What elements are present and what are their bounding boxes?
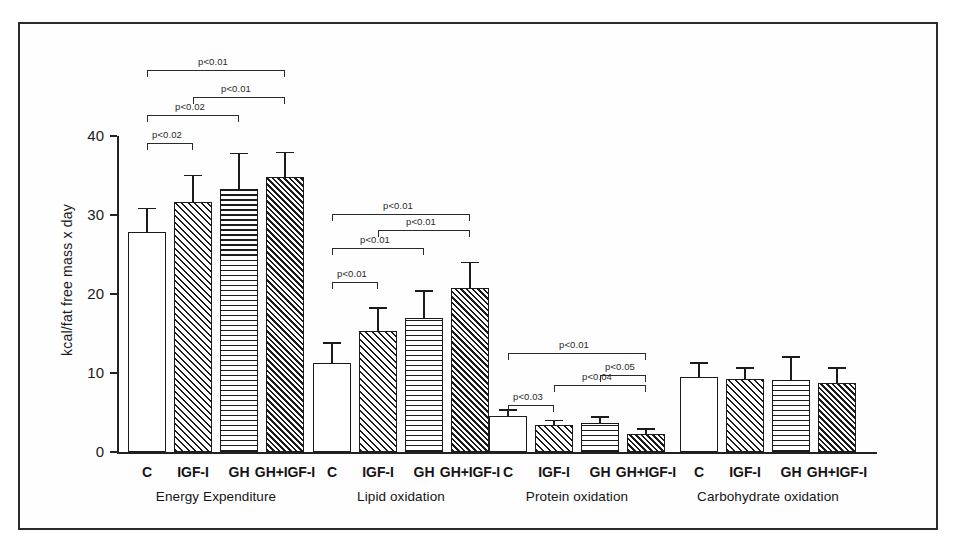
significance-bracket-line (332, 282, 378, 283)
error-bar-cap (782, 356, 800, 358)
significance-bracket-tick-left (332, 214, 333, 221)
bar (266, 177, 304, 452)
bar (174, 202, 212, 452)
significance-p-value-label: p<0.01 (360, 235, 390, 245)
y-axis-tick (110, 135, 117, 137)
y-axis-tick-label-text: 20 (74, 286, 104, 301)
significance-bracket-tick-left (332, 282, 333, 289)
error-bar-stem (238, 153, 240, 189)
y-axis-tick (110, 214, 117, 216)
error-bar-cap (184, 175, 202, 177)
error-bar-cap (323, 342, 341, 344)
y-axis-tick-label-text: 40 (74, 128, 104, 143)
figure-root: 010203040 kcal/fat free mass x day p<0.0… (0, 0, 956, 560)
significance-bracket-line (508, 405, 554, 406)
error-bar-cap (828, 367, 846, 369)
significance-bracket-tick-left (147, 70, 148, 77)
x-axis-group-label: Protein oxidation (467, 489, 687, 505)
error-bar-cap (637, 428, 655, 430)
x-axis-group-label: Carbohydrate oxidation (658, 489, 878, 505)
significance-p-value-label: p<0.05 (605, 362, 635, 372)
x-axis-line (117, 452, 877, 454)
significance-bracket-tick-right (238, 115, 239, 122)
error-bar-cap (415, 290, 433, 292)
significance-bracket-tick-right (284, 70, 285, 77)
significance-bracket-tick-left (378, 230, 379, 237)
error-bar-stem (790, 356, 792, 380)
significance-bracket-line (147, 115, 239, 116)
y-axis-tick-label-text: 10 (74, 365, 104, 380)
bar (535, 425, 573, 452)
significance-bracket-line (193, 97, 285, 98)
significance-bracket-tick-left (554, 385, 555, 392)
significance-bracket-tick-left (193, 97, 194, 104)
x-axis-category-label: GH+IGF-I (792, 464, 882, 480)
significance-p-value-label: p<0.01 (559, 340, 589, 350)
significance-bracket-line (332, 248, 424, 249)
significance-bracket-tick-left (508, 405, 509, 412)
bar (627, 434, 665, 452)
significance-bracket-tick-right (192, 143, 193, 150)
significance-bracket-tick-right (377, 282, 378, 289)
significance-p-value-label: p<0.04 (582, 372, 612, 382)
chart-plot-area: 010203040 kcal/fat free mass x day p<0.0… (0, 0, 956, 560)
error-bar-cap (276, 152, 294, 154)
significance-bracket-line (378, 230, 470, 231)
y-axis-title: kcal/fat free mass x day (59, 175, 75, 385)
significance-p-value-label: p<0.01 (198, 57, 228, 67)
significance-bracket-tick-right (469, 230, 470, 237)
error-bar-cap (736, 367, 754, 369)
bar (405, 318, 443, 452)
significance-bracket-line (554, 385, 646, 386)
error-bar-stem (331, 342, 333, 363)
y-axis-tick (110, 451, 117, 453)
error-bar-stem (698, 362, 700, 377)
significance-bracket-line (600, 375, 646, 376)
bar (726, 379, 764, 452)
bar (680, 377, 718, 452)
error-bar-stem (744, 367, 746, 378)
significance-p-value-label: p<0.03 (513, 392, 543, 402)
error-bar-cap (545, 420, 563, 422)
significance-bracket-line (147, 143, 193, 144)
significance-bracket-tick-left (147, 115, 148, 122)
y-axis-tick (110, 293, 117, 295)
significance-bracket-line (147, 70, 285, 71)
significance-p-value-label: p<0.02 (175, 102, 205, 112)
error-bar-cap (690, 362, 708, 364)
y-axis-line (117, 136, 119, 454)
error-bar-cap (230, 153, 248, 155)
error-bar-cap (461, 262, 479, 264)
significance-bracket-line (508, 353, 646, 354)
bar (128, 232, 166, 452)
bar (359, 331, 397, 452)
significance-bracket-tick-right (423, 248, 424, 255)
significance-bracket-line (332, 214, 470, 215)
significance-p-value-label: p<0.01 (406, 217, 436, 227)
error-bar-stem (284, 152, 286, 177)
bar (220, 189, 258, 452)
error-bar-cap (138, 208, 156, 210)
significance-bracket-tick-left (508, 353, 509, 360)
bar (772, 380, 810, 452)
y-axis-tick-label: 40 (68, 128, 104, 143)
significance-bracket-tick-right (645, 353, 646, 360)
bar (489, 416, 527, 452)
significance-bracket-tick-right (469, 214, 470, 221)
error-bar-stem (836, 367, 838, 383)
significance-bracket-tick-right (553, 405, 554, 412)
error-bar-stem (469, 262, 471, 288)
significance-p-value-label: p<0.01 (383, 201, 413, 211)
y-axis-tick-label: 0 (68, 444, 104, 459)
significance-bracket-tick-left (332, 248, 333, 255)
significance-bracket-tick-left (600, 375, 601, 382)
error-bar-stem (377, 307, 379, 331)
significance-bracket-tick-right (645, 375, 646, 382)
bar (581, 423, 619, 452)
error-bar-stem (192, 175, 194, 202)
bar (451, 288, 489, 452)
significance-bracket-tick-right (645, 385, 646, 392)
significance-p-value-label: p<0.01 (221, 84, 251, 94)
significance-p-value-label: p<0.01 (337, 269, 367, 279)
y-axis-tick (110, 372, 117, 374)
